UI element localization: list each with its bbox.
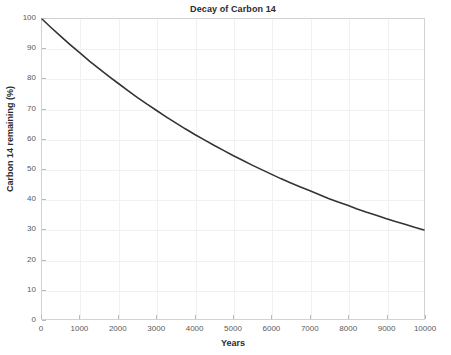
- y-axis-tick-mark: [42, 229, 46, 230]
- y-axis-label: Carbon 14 remaining (%): [5, 69, 15, 209]
- x-axis-tick-label: 5000: [213, 325, 253, 333]
- y-axis-tick-label: 0: [6, 316, 36, 324]
- y-axis-tick-mark: [42, 290, 46, 291]
- x-axis-tick-label: 4000: [175, 325, 215, 333]
- chart-title: Decay of Carbon 14: [41, 4, 425, 14]
- x-axis-tick-label: 0: [21, 325, 61, 333]
- y-axis-tick-mark: [42, 199, 46, 200]
- decay-curve: [42, 19, 424, 319]
- y-axis-tick-label: 10: [6, 286, 36, 294]
- x-axis-tick-mark: [195, 315, 196, 319]
- x-axis-tick-mark: [41, 315, 42, 319]
- x-axis-tick-mark: [425, 315, 426, 319]
- y-axis-tick-label: 30: [6, 225, 36, 233]
- x-axis-tick-label: 6000: [251, 325, 291, 333]
- y-axis-tick-mark: [42, 48, 46, 49]
- x-axis-tick-label: 9000: [367, 325, 407, 333]
- plot-area: [41, 18, 425, 320]
- x-axis-tick-label: 8000: [328, 325, 368, 333]
- y-axis-tick-mark: [42, 78, 46, 79]
- x-axis-tick-mark: [79, 315, 80, 319]
- x-axis-tick-label: 2000: [98, 325, 138, 333]
- y-axis-tick-label: 20: [6, 256, 36, 264]
- x-axis-label: Years: [41, 338, 425, 348]
- y-axis-tick-mark: [42, 139, 46, 140]
- y-axis-tick-label: 90: [6, 44, 36, 52]
- y-axis-tick-mark: [42, 18, 46, 19]
- y-axis-tick-mark: [42, 260, 46, 261]
- x-axis-tick-label: 1000: [59, 325, 99, 333]
- x-axis-tick-mark: [233, 315, 234, 319]
- x-axis-tick-mark: [387, 315, 388, 319]
- x-axis-tick-label: 7000: [290, 325, 330, 333]
- y-axis-tick-mark: [42, 109, 46, 110]
- y-axis-tick-mark: [42, 169, 46, 170]
- x-axis-tick-mark: [348, 315, 349, 319]
- y-axis-tick-mark: [42, 320, 46, 321]
- x-axis-tick-label: 3000: [136, 325, 176, 333]
- y-axis-tick-label: 100: [6, 14, 36, 22]
- x-axis-tick-label: 10000: [405, 325, 445, 333]
- x-axis-tick-mark: [156, 315, 157, 319]
- x-axis-tick-mark: [310, 315, 311, 319]
- x-axis-tick-mark: [118, 315, 119, 319]
- chart-figure: Decay of Carbon 14 010203040506070809010…: [0, 0, 451, 355]
- x-axis-tick-mark: [271, 315, 272, 319]
